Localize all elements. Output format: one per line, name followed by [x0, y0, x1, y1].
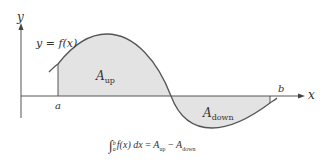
integral-lower-limit: a: [113, 146, 116, 152]
formula-term-down-subscript: down: [182, 146, 195, 152]
area-down-label: Adown: [203, 107, 234, 122]
y-axis-label: y: [17, 11, 24, 23]
equals-sign: =: [145, 139, 151, 150]
minus-sign: −: [168, 139, 174, 150]
integral-upper-limit: b: [113, 140, 116, 146]
curve-label: y = f(x): [36, 38, 77, 49]
x-axis-arrow-icon: [298, 94, 305, 99]
area-up-label: Aup: [96, 70, 115, 85]
y-axis-arrow-icon: [19, 23, 24, 30]
integral-formula: ∫baf(x) dx = Aup − Adown: [109, 138, 196, 154]
formula-term-up-subscript: up: [159, 146, 165, 152]
integrand: f(x) dx: [117, 139, 143, 150]
x-axis-label: x: [308, 89, 315, 101]
lower-bound-label: a: [55, 101, 61, 111]
upper-bound-label: b: [278, 84, 284, 94]
